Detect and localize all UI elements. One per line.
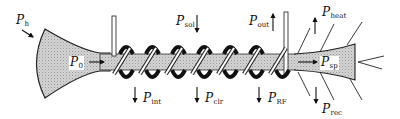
power-flow-diagram: Ph P0 Psol Pout Pheat Psp Pint Pclr PRF … [0, 0, 400, 119]
label-p-out: Pout [249, 15, 269, 29]
coil-lead-right [284, 12, 288, 74]
label-p-clr: Pclr [205, 92, 223, 106]
coil-lead-left [112, 16, 116, 56]
label-p-heat: Pheat [322, 6, 346, 20]
label-p-h: Ph [16, 14, 29, 28]
label-p-rf: PRF [268, 92, 287, 106]
label-p-rec: Prec [322, 103, 342, 117]
label-p-int: Pint [143, 92, 161, 106]
label-p-0: P0 [69, 56, 84, 70]
label-p-sp: Psp [320, 56, 339, 70]
label-p-sol: Psol [176, 15, 195, 29]
arrow-p-h [22, 30, 33, 37]
